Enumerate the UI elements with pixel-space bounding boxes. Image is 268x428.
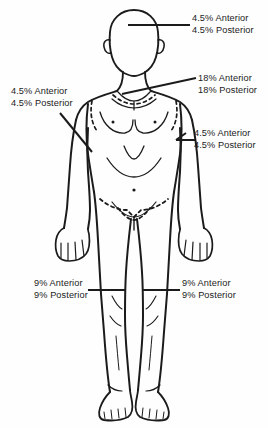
shin-detail (116, 336, 152, 370)
region-divider-arm-left (91, 101, 97, 131)
abdomen-contour (107, 146, 161, 177)
callout-head-anterior: 4.5% Anterior (192, 13, 254, 25)
ankle-detail (108, 385, 160, 391)
hand-left-outline (56, 228, 90, 261)
clavicle-lines (112, 92, 156, 110)
callout-leg-left-posterior: 9% Posterior (34, 290, 88, 302)
callout-arm-left: 4.5% Anterior 4.5% Posterior (11, 86, 73, 109)
callout-leg-left-anterior: 9% Anterior (34, 278, 88, 290)
region-divider-groin (100, 199, 168, 217)
knee-detail (110, 296, 158, 326)
head-outline (110, 10, 159, 76)
groin-contour (112, 202, 156, 217)
callout-leg-right: 9% Anterior 9% Posterior (182, 278, 236, 301)
nipple-right (154, 121, 157, 124)
leg-right-outline (137, 192, 174, 392)
rule-of-nines-diagram: 4.5% Anterior 4.5% Posterior 18% Anterio… (0, 0, 268, 428)
hand-right-outline (179, 228, 213, 261)
leg-left-outline (94, 192, 131, 392)
foot-right-outline (136, 390, 169, 420)
callout-head: 4.5% Anterior 4.5% Posterior (192, 13, 254, 36)
callout-leg-left: 9% Anterior 9% Posterior (34, 278, 88, 301)
callout-head-posterior: 4.5% Posterior (192, 25, 254, 37)
body-figure-illustration (0, 0, 268, 428)
foot-left-outline (99, 390, 132, 420)
callout-trunk-anterior: 18% Anterior (198, 73, 257, 85)
nipple-left (112, 121, 115, 124)
callout-leg-right-anterior: 9% Anterior (182, 278, 236, 290)
callout-arm-right-anterior: 4.5% Anterior (194, 128, 256, 140)
chest-contour (100, 112, 168, 133)
callout-leg-right-posterior: 9% Posterior (182, 290, 236, 302)
leader-line-trunk (122, 78, 196, 94)
region-divider-arm-right (171, 101, 177, 131)
callout-arm-left-anterior: 4.5% Anterior (11, 86, 73, 98)
callout-trunk: 18% Anterior 18% Posterior (198, 73, 257, 96)
callout-arm-right-posterior: 4.5% Posterior (194, 140, 256, 152)
callout-arm-left-posterior: 4.5% Posterior (11, 98, 73, 110)
navel (132, 188, 135, 191)
callout-arm-right: 4.5% Anterior 4.5% Posterior (194, 128, 256, 151)
callout-trunk-posterior: 18% Posterior (198, 85, 257, 97)
